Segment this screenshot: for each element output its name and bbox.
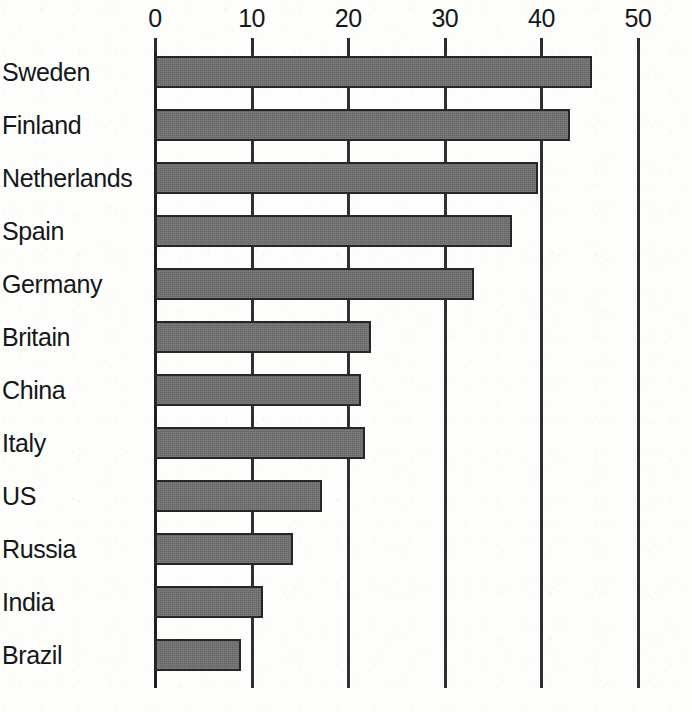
bar-chart-figure: 01020304050 SwedenFinlandNetherlandsSpai… bbox=[0, 0, 692, 712]
bar-italy bbox=[155, 427, 365, 459]
bar-sweden bbox=[155, 56, 592, 88]
bar-russia bbox=[155, 533, 293, 565]
bar-spain bbox=[155, 215, 512, 247]
gridline-50 bbox=[637, 52, 640, 688]
x-tick-label-40: 40 bbox=[528, 4, 555, 32]
bar-germany bbox=[155, 268, 474, 300]
category-label-china: China bbox=[2, 376, 65, 404]
gridline-40 bbox=[540, 52, 543, 688]
x-tick-label-0: 0 bbox=[148, 4, 161, 32]
bar-china bbox=[155, 374, 361, 406]
x-tick-label-30: 30 bbox=[431, 4, 458, 32]
bar-india bbox=[155, 586, 263, 618]
category-label-russia: Russia bbox=[2, 535, 76, 563]
bar-britain bbox=[155, 321, 371, 353]
bar-brazil bbox=[155, 639, 241, 671]
category-label-sweden: Sweden bbox=[2, 58, 90, 86]
bar-finland bbox=[155, 109, 570, 141]
bar-us bbox=[155, 480, 322, 512]
category-label-brazil: Brazil bbox=[2, 641, 62, 669]
category-label-finland: Finland bbox=[2, 111, 81, 139]
category-label-india: India bbox=[2, 588, 54, 616]
category-label-italy: Italy bbox=[2, 429, 46, 457]
category-label-spain: Spain bbox=[2, 217, 64, 245]
category-label-germany: Germany bbox=[2, 270, 102, 298]
x-tick-label-50: 50 bbox=[625, 4, 652, 32]
bar-netherlands bbox=[155, 162, 538, 194]
category-label-us: US bbox=[2, 482, 36, 510]
category-label-britain: Britain bbox=[2, 323, 70, 351]
gridline-20 bbox=[347, 52, 350, 688]
x-tick-label-20: 20 bbox=[335, 4, 362, 32]
x-tick-label-10: 10 bbox=[238, 4, 265, 32]
gridline-30 bbox=[444, 52, 447, 688]
category-label-netherlands: Netherlands bbox=[2, 164, 132, 192]
